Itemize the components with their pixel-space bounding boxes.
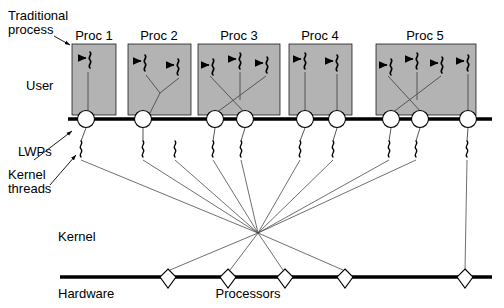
kernel-stem <box>333 128 337 141</box>
kernel-thread-squiggle-icon <box>142 141 144 157</box>
lwp-node <box>383 111 400 128</box>
threads-architecture-diagram: Proc 1 Proc 2 Proc 3 Proc 4 Proc 5 <box>0 0 504 308</box>
kernel-stem <box>81 128 86 141</box>
label-kernel-threads-line1: Kernel <box>8 167 46 182</box>
kernel-stem <box>416 128 420 141</box>
lwp-node <box>78 111 95 128</box>
process-box-proc-1 <box>72 44 116 115</box>
fan-line <box>81 160 258 233</box>
kernel-stem <box>467 128 468 141</box>
fan-line <box>241 160 258 233</box>
process-box-proc-2 <box>128 44 191 115</box>
process-labels: Proc 1 Proc 2 Proc 3 Proc 4 Proc 5 <box>75 28 444 43</box>
label-kernel-threads-line2: threads <box>8 181 52 196</box>
kernel-thread-squiggle-icon <box>299 141 301 157</box>
label-user: User <box>26 78 54 93</box>
fan-line <box>143 160 258 233</box>
label-traditional-process-line1: Traditional <box>8 8 68 23</box>
lwp-node <box>412 111 429 128</box>
kernel-thread-squiggle-icon <box>332 141 334 157</box>
diagram-canvas: Proc 1 Proc 2 Proc 3 Proc 4 Proc 5 <box>0 0 504 308</box>
kernel-thread-squiggle-icon <box>388 141 390 157</box>
lwp-node <box>460 111 477 128</box>
traditional-process-leader-arrow-icon <box>54 36 70 45</box>
process-label-proc-3: Proc 3 <box>220 28 258 43</box>
lwp-node <box>297 111 314 128</box>
processor-node <box>160 269 176 288</box>
process-label-proc-1: Proc 1 <box>75 28 113 43</box>
kernel-thread-squiggle-icon <box>466 141 468 157</box>
lwp-to-kernel-thread-stems <box>81 128 468 141</box>
kernel-scheduling-fan-lines <box>81 160 416 233</box>
label-lwps: LWPs <box>18 144 52 159</box>
callout-leaders <box>34 36 76 185</box>
label-hardware: Hardware <box>58 286 114 301</box>
bound-thread-line <box>465 160 467 270</box>
kernel-thread-squiggle-icon <box>240 141 242 157</box>
lwp-node <box>207 111 224 128</box>
lwp-node <box>237 111 254 128</box>
process-boxes <box>72 44 476 115</box>
kernel-stem <box>389 128 391 141</box>
fan-line <box>213 160 258 233</box>
kernel-thread-squiggle-icon <box>174 141 176 157</box>
kernel-thread-squiggle-icon <box>80 141 82 157</box>
fan-line <box>258 160 416 233</box>
fan-line <box>175 160 258 233</box>
process-label-proc-5: Proc 5 <box>406 28 444 43</box>
kernel-stem <box>300 128 305 141</box>
label-processors: Processors <box>215 286 281 301</box>
kernel-thread-glyphs <box>80 141 468 157</box>
kernel-stem <box>213 128 215 141</box>
dispatch-line <box>170 233 258 270</box>
label-kernel: Kernel <box>58 229 96 244</box>
label-traditional-process-line2: process <box>8 22 54 37</box>
process-label-proc-4: Proc 4 <box>301 28 339 43</box>
process-box-proc-4 <box>289 44 352 115</box>
process-box-proc-3 <box>198 44 280 115</box>
kernel-stem <box>241 128 245 141</box>
kernel-thread-squiggle-icon <box>415 141 417 157</box>
fan-line <box>258 160 389 233</box>
processor-dispatch-lines <box>170 233 343 270</box>
lwp-node <box>135 111 152 128</box>
fan-line <box>258 160 300 233</box>
fan-line <box>258 160 333 233</box>
process-label-proc-2: Proc 2 <box>140 28 178 43</box>
kernel-thread-squiggle-icon <box>212 141 214 157</box>
processor-node <box>337 269 353 288</box>
processor-node <box>457 269 473 288</box>
kernel-threads-leader-arrow-icon <box>50 155 76 185</box>
lwp-node <box>329 111 346 128</box>
